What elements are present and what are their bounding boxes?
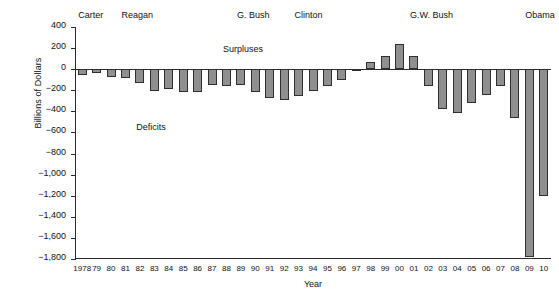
y-tick-mark	[71, 238, 76, 239]
y-tick-label: −1,000	[6, 168, 66, 178]
bar-89	[236, 69, 245, 85]
y-tick-label: −400	[6, 104, 66, 114]
bar-91	[265, 69, 274, 97]
annotation-deficits: Deficits	[136, 122, 166, 132]
group-label-g-bush: G. Bush	[237, 10, 270, 20]
bar-04	[453, 69, 462, 113]
y-tick-label: −200	[6, 83, 66, 93]
y-tick-mark	[71, 196, 76, 197]
bar-90	[251, 69, 260, 92]
bar-98	[366, 62, 375, 69]
bar-09	[525, 69, 534, 257]
group-label-clinton: Clinton	[295, 10, 323, 20]
y-tick-mark	[71, 69, 76, 70]
y-tick-mark	[71, 90, 76, 91]
x-axis-title: Year	[75, 279, 551, 289]
bar-93	[294, 69, 303, 96]
bar-80	[107, 69, 116, 77]
y-tick-label: −1,200	[6, 189, 66, 199]
bar-92	[280, 69, 289, 100]
bar-03	[438, 69, 447, 109]
bar-10	[539, 69, 548, 196]
bar-86	[193, 69, 202, 92]
y-tick-mark	[71, 154, 76, 155]
bar-01	[409, 56, 418, 69]
bar-94	[309, 69, 318, 90]
bar-1978	[78, 69, 87, 75]
y-tick-label: 0	[6, 62, 66, 72]
bar-99	[381, 56, 390, 69]
y-tick-label: −600	[6, 125, 66, 135]
y-tick-label: −1,800	[6, 252, 66, 262]
y-tick-label: 200	[6, 41, 66, 51]
group-label-g-w-bush: G.W. Bush	[410, 10, 453, 20]
bar-85	[179, 69, 188, 91]
bar-97	[352, 69, 361, 71]
bar-79	[92, 69, 101, 73]
bar-95	[323, 69, 332, 86]
bar-87	[208, 69, 217, 85]
bar-84	[164, 69, 173, 89]
y-tick-mark	[71, 175, 76, 176]
group-label-carter: Carter	[78, 10, 103, 20]
x-tick-label: 10	[530, 264, 558, 273]
y-axis-line	[75, 27, 76, 259]
group-label-reagan: Reagan	[121, 10, 153, 20]
x-axis-line	[75, 258, 551, 259]
deficit-surplus-bar-chart: Billions of Dollars Year 4002000−200−400…	[0, 0, 559, 295]
y-tick-mark	[71, 27, 76, 28]
group-label-obama: Obama	[525, 10, 555, 20]
bar-82	[135, 69, 144, 82]
bar-07	[496, 69, 505, 86]
bar-83	[150, 69, 159, 91]
y-tick-label: −800	[6, 147, 66, 157]
bar-88	[222, 69, 231, 85]
plot-area: Year 4002000−200−400−600−800−1,000−1,200…	[75, 27, 551, 259]
y-tick-label: −1,600	[6, 231, 66, 241]
bar-08	[510, 69, 519, 117]
y-tick-label: 400	[6, 20, 66, 30]
annotation-surpluses: Surpluses	[223, 44, 263, 54]
bar-05	[467, 69, 476, 103]
y-tick-mark	[71, 132, 76, 133]
bar-96	[337, 69, 346, 80]
y-tick-label: −1,400	[6, 210, 66, 220]
bar-81	[121, 69, 130, 77]
y-tick-mark	[71, 259, 76, 260]
bar-00	[395, 44, 404, 69]
y-tick-mark	[71, 217, 76, 218]
bar-06	[482, 69, 491, 95]
y-tick-mark	[71, 111, 76, 112]
y-tick-mark	[71, 48, 76, 49]
bar-02	[424, 69, 433, 86]
